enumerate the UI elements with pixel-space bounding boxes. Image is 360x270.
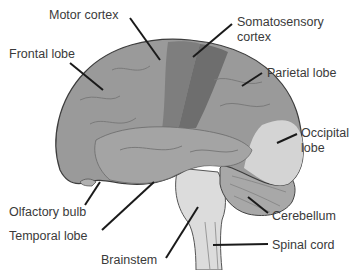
label-brainstem: Brainstem bbox=[101, 253, 157, 267]
label-somatosensory-cortex-2: cortex bbox=[237, 30, 271, 44]
cerebrum-shape bbox=[56, 39, 303, 186]
label-spinal-cord: Spinal cord bbox=[272, 238, 335, 252]
label-temporal-lobe: Temporal lobe bbox=[9, 229, 88, 243]
label-somatosensory-cortex-1: Somatosensory bbox=[237, 15, 324, 29]
brainstem-shape bbox=[176, 168, 226, 270]
label-parietal-lobe: Parietal lobe bbox=[267, 66, 337, 80]
label-cerebellum: Cerebellum bbox=[272, 209, 336, 223]
label-frontal-lobe: Frontal lobe bbox=[9, 47, 75, 61]
label-occipital-lobe-1: Occipital bbox=[301, 126, 349, 140]
label-occipital-lobe-2: lobe bbox=[301, 141, 325, 155]
label-olfactory-bulb: Olfactory bulb bbox=[9, 205, 86, 219]
label-motor-cortex: Motor cortex bbox=[49, 8, 118, 22]
